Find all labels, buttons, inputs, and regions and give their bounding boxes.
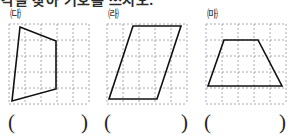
answer-blank-1[interactable]: ( ) [8,110,88,134]
worksheet-heading: 각을 찾아 기호를 쓰시오. [0,0,292,7]
figure-label-1: ㈐ [8,8,22,22]
worksheet-heading-text: 각을 찾아 기호를 쓰시오. [1,0,154,7]
paren-close-2: ) [181,112,188,133]
figure-panel-3: ㈒ [203,8,292,108]
paren-close-1: ) [81,112,88,133]
shape-outline-1 [8,23,92,105]
paren-close-3: ) [279,112,286,133]
paren-open-1: ( [8,112,15,133]
figure-panel-1: ㈐ [6,8,98,108]
paren-open-3: ( [204,112,211,133]
figure-grid-2 [106,23,190,105]
figure-label-3: ㈒ [205,8,219,22]
answer-blank-2[interactable]: ( ) [104,110,188,134]
answer-blank-3[interactable]: ( ) [204,110,286,134]
figure-label-2: ㈑ [106,8,120,22]
paren-open-2: ( [104,112,111,133]
shape-outline-3 [205,23,289,105]
figure-panel-2: ㈑ [104,8,196,108]
shape-outline-2 [106,23,190,105]
figure-grid-1 [8,23,92,105]
figure-grid-3 [205,23,289,105]
